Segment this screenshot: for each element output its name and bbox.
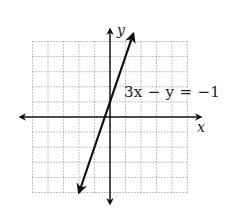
equation-line bbox=[79, 34, 133, 193]
y-axis-label: y bbox=[116, 22, 126, 38]
equation-label: 3x − y = −1 bbox=[124, 83, 220, 101]
coordinate-graph: x y 3x − y = −1 bbox=[0, 0, 234, 208]
x-axis-label: x bbox=[197, 119, 205, 135]
